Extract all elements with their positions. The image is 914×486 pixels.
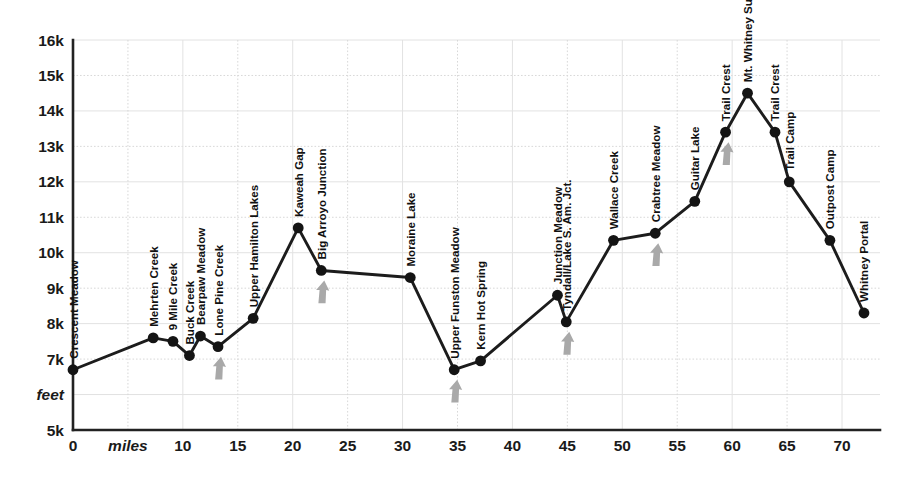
point-label: Upper Funston Meadow	[448, 226, 461, 358]
x-tick-label: 55	[669, 437, 687, 454]
data-point	[195, 331, 206, 342]
point-label: Moraine Lake	[404, 192, 417, 267]
x-tick-label: 10	[174, 437, 191, 454]
data-point	[689, 196, 700, 207]
y-tick-label: 10k	[38, 244, 64, 261]
data-point	[742, 88, 753, 99]
up-arrow-marker-icon	[558, 331, 576, 357]
y-tick-label: 9k	[47, 280, 65, 297]
x-tick-label: 30	[394, 437, 411, 454]
point-label: Outpost Camp	[823, 149, 836, 229]
y-axis-unit-label: feet	[36, 386, 64, 403]
up-arrow-marker-icon	[446, 378, 464, 404]
x-tick-label: 65	[778, 437, 796, 454]
elevation-profile-chart: 5kfeet7k8k9k10k11k12k13k14k15k16k0miles1…	[0, 0, 914, 486]
x-tick-label: 70	[833, 437, 850, 454]
x-tick-label: 40	[504, 437, 521, 454]
data-point	[561, 316, 572, 327]
x-tick-label: 25	[339, 437, 357, 454]
chart-canvas: 5kfeet7k8k9k10k11k12k13k14k15k16k0miles1…	[0, 0, 914, 486]
data-point	[608, 235, 619, 246]
data-point	[449, 364, 460, 375]
point-label: Lone Pine Creek	[212, 244, 225, 335]
data-point	[475, 355, 486, 366]
data-point	[650, 228, 661, 239]
point-label: Crescent Meadow	[67, 259, 80, 359]
y-tick-label: 14k	[38, 102, 64, 119]
data-point	[720, 127, 731, 138]
data-point	[293, 223, 304, 234]
x-tick-label: 50	[614, 437, 631, 454]
point-label: Upper Hamilton Lakes	[247, 185, 260, 307]
up-arrow-marker-icon	[210, 355, 228, 381]
x-tick-label: 15	[229, 437, 247, 454]
up-arrow-marker-icon	[314, 279, 332, 305]
y-tick-label: 7k	[47, 351, 65, 368]
data-point	[825, 235, 836, 246]
x-tick-label: 45	[559, 437, 577, 454]
x-tick-label: 60	[724, 437, 741, 454]
data-point	[770, 127, 781, 138]
point-label: Guitar Lake	[688, 126, 701, 190]
data-point	[184, 350, 195, 361]
y-tick-label: 5k	[47, 422, 65, 439]
x-tick-label: 35	[449, 437, 467, 454]
x-axis-unit-label: miles	[108, 437, 148, 454]
data-point	[168, 336, 179, 347]
point-label: Bearpaw Meadow	[194, 227, 207, 325]
point-label: 9 Mile Creek	[166, 262, 179, 330]
up-arrow-marker-icon	[647, 242, 665, 268]
point-label: Trail Crest	[719, 64, 732, 121]
point-label: Tyndall/Lake S. Am. Jct.	[560, 179, 573, 310]
data-point	[405, 272, 416, 283]
y-tick-label: 8k	[47, 315, 65, 332]
data-point	[68, 364, 79, 375]
x-tick-label: 20	[284, 437, 301, 454]
y-tick-label: 13k	[38, 138, 64, 155]
point-label: Trail Camp	[783, 112, 796, 171]
data-point	[148, 332, 159, 343]
x-tick-label: 0	[69, 437, 78, 454]
data-point	[859, 308, 870, 319]
y-tick-label: 15k	[38, 67, 64, 84]
point-label: Kaweah Gap	[292, 147, 305, 217]
point-label: Wallace Creek	[607, 151, 620, 230]
point-label: Kern Hot Spring	[474, 261, 487, 350]
data-point	[213, 341, 224, 352]
y-tick-label: 11k	[39, 209, 64, 226]
point-label: Mehrten Creek	[147, 246, 160, 327]
point-label: Mt. Whitney Summit	[741, 0, 754, 82]
data-point	[784, 176, 795, 187]
y-tick-label: 12k	[38, 173, 64, 190]
y-tick-label: 16k	[38, 32, 64, 49]
point-label: Trail Crest	[768, 64, 781, 121]
point-label: Crabtree Meadow	[649, 125, 662, 223]
point-label: Whitney Portal	[857, 221, 870, 302]
data-point	[248, 313, 259, 324]
data-point	[316, 265, 327, 276]
point-label: Big Arroyo Junction	[315, 148, 328, 259]
